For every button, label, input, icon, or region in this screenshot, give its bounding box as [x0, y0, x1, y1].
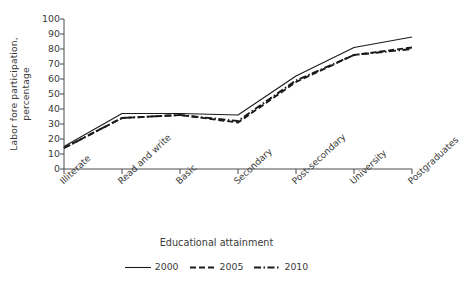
legend-swatch-2000 [125, 263, 151, 272]
legend-item: 2000 [125, 262, 179, 272]
legend-swatch-2005 [190, 263, 216, 272]
x-axis-tick-label: Read and write [116, 132, 173, 186]
x-axis-tick-label: Postgraduates [406, 135, 460, 187]
legend-label: 2005 [220, 262, 244, 272]
legend-swatch-2010 [254, 263, 280, 272]
legend-item: 2005 [190, 262, 244, 272]
legend-item: 2010 [254, 262, 308, 272]
x-axis-tick-label: Secondary [232, 146, 274, 186]
chart-legend: 200020052010 [0, 262, 433, 272]
x-axis-tick-label: Post-secondary [290, 132, 348, 187]
x-axis-title: Educational attainment [0, 237, 433, 248]
x-axis-tick-label: Illiterate [58, 153, 93, 186]
legend-label: 2000 [155, 262, 179, 272]
x-axis-tick-label: University [348, 148, 388, 187]
legend-label: 2010 [284, 262, 308, 272]
x-axis-tick-label: Basic [174, 163, 198, 187]
